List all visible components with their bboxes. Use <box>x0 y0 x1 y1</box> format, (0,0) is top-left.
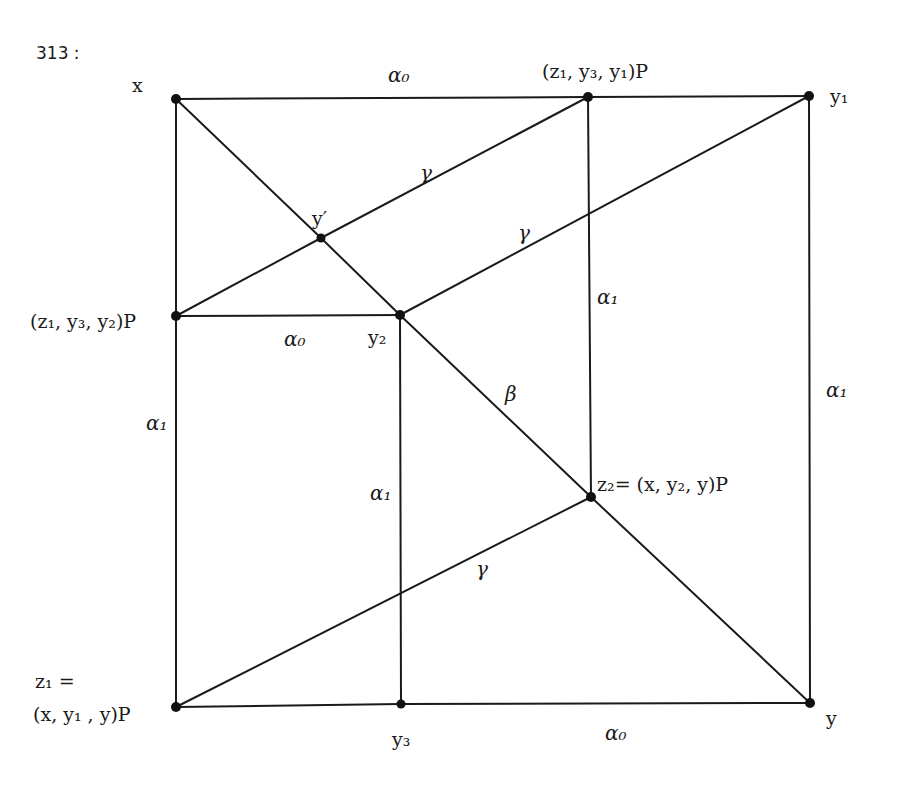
label-z1-line1: z₁ = <box>35 670 75 692</box>
label-y1: y₁ <box>829 85 848 107</box>
edge-label-alpha1-left: α₁ <box>146 411 168 435</box>
edge-pleft-y2 <box>176 315 400 316</box>
node-y <box>805 698 815 708</box>
node-z2 <box>586 492 596 502</box>
edge-label-alpha0-middle: α₀ <box>284 327 306 351</box>
label-y2: y₂ <box>367 326 386 348</box>
node-ptop <box>583 92 593 102</box>
edge-label-gamma-middle: γ <box>518 221 530 245</box>
edge-label-gamma-upper: γ <box>420 161 432 185</box>
edge-label-alpha1-inner: α₁ <box>370 481 392 505</box>
node-x <box>171 94 181 104</box>
edge-label-top-alpha0: α₀ <box>388 63 410 87</box>
edge-y3-y <box>401 703 810 704</box>
node-z1 <box>171 702 181 712</box>
edge-labels: α₀ γ γ α₁ α₁ α₀ β α₁ α₁ γ α₀ <box>146 63 848 745</box>
node-yprime <box>317 234 326 243</box>
figure-number: 313 : <box>36 43 80 63</box>
node-pleft <box>171 311 181 321</box>
edge-ptop-y1 <box>588 96 809 97</box>
edge-label-gamma-lower: γ <box>476 557 488 581</box>
edge-label-beta: β <box>504 382 517 406</box>
edge-y2-z2 <box>400 315 591 497</box>
edge-z1-y3 <box>176 704 401 707</box>
edge-yprime-y2 <box>321 238 400 315</box>
edge-y2-y1 <box>400 96 809 315</box>
edge-x-yprime <box>176 99 321 238</box>
label-z2: z₂= (x, y₂, y)P <box>597 473 728 495</box>
edge-yprime-ptop <box>321 97 588 238</box>
graph-diagram: 313 : <box>0 0 897 795</box>
label-pleft: (z₁, y₃, y₂)P <box>30 310 136 332</box>
node-y3 <box>397 700 406 709</box>
edge-z1-z2 <box>176 497 591 707</box>
edge-ptop-z2 <box>588 97 591 497</box>
edge-label-alpha0-bottom: α₀ <box>605 721 627 745</box>
edges <box>176 96 810 707</box>
label-ptop: (z₁, y₃, y₁)P <box>542 60 648 82</box>
label-yprime: y′ <box>311 207 327 229</box>
node-labels: x (z₁, y₃, y₁)P y₁ y′ (z₁, y₃, y₂)P y₂ z… <box>30 60 848 750</box>
edge-z2-y <box>591 497 810 703</box>
label-x: x <box>132 74 143 96</box>
label-y: y <box>825 707 837 729</box>
edge-label-alpha1-center: α₁ <box>597 285 619 309</box>
edge-y2-y3 <box>400 315 401 704</box>
edge-pleft-yprime <box>176 238 321 316</box>
edge-x-ptop <box>176 97 588 99</box>
edge-label-alpha1-right: α₁ <box>826 378 848 402</box>
edge-y1-y <box>809 96 810 703</box>
label-z1-line2: (x, y₁ , y)P <box>33 703 131 725</box>
node-y1 <box>804 91 814 101</box>
node-y2 <box>395 310 405 320</box>
label-y3: y₃ <box>391 728 410 750</box>
nodes <box>171 91 815 712</box>
